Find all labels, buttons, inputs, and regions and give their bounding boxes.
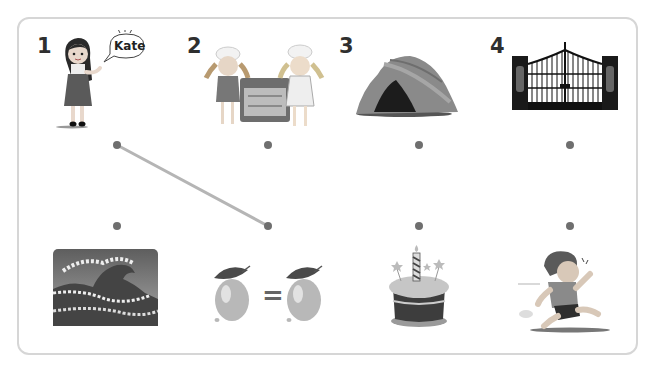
- bottom-dot-3[interactable]: [415, 222, 423, 230]
- speech-bubble-text: Kate: [114, 39, 145, 53]
- top-dot-3[interactable]: [415, 141, 423, 149]
- picture-rock-cave[interactable]: [354, 50, 459, 118]
- picture-lemon-equals-lemon[interactable]: =: [212, 264, 332, 328]
- bottom-dot-4[interactable]: [566, 222, 574, 230]
- picture-girl-kate[interactable]: Kate: [52, 30, 152, 130]
- bottom-dot-1[interactable]: [113, 222, 121, 230]
- top-dot-2[interactable]: [264, 141, 272, 149]
- picture-ocean-wave[interactable]: [53, 249, 158, 326]
- picture-birthday-cake[interactable]: [383, 245, 455, 330]
- top-dot-1[interactable]: [113, 141, 121, 149]
- picture-iron-gate[interactable]: [510, 40, 620, 110]
- picture-children-baking[interactable]: [200, 44, 330, 129]
- equals-sign: =: [262, 280, 284, 310]
- picture-running-boy[interactable]: [518, 248, 618, 334]
- top-dot-4[interactable]: [566, 141, 574, 149]
- bottom-dot-2[interactable]: [264, 222, 272, 230]
